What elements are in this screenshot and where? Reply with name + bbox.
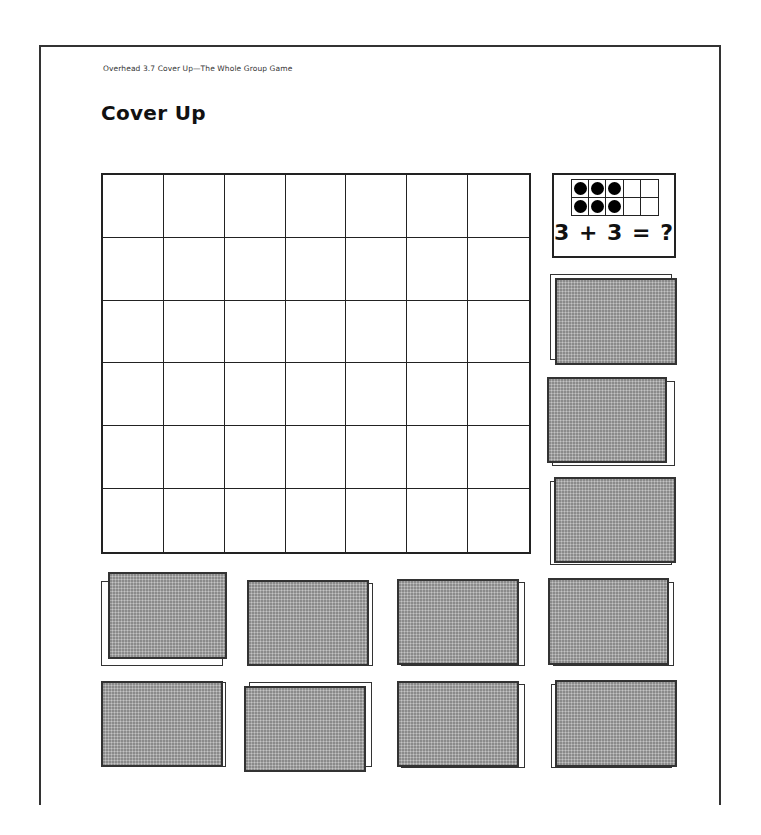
game-board-grid: [101, 173, 531, 554]
board-cell[interactable]: [468, 238, 529, 301]
board-cell[interactable]: [164, 301, 225, 364]
board-cell[interactable]: [103, 489, 164, 552]
board-cell[interactable]: [468, 363, 529, 426]
board-cell[interactable]: [103, 175, 164, 238]
page-title: Cover Up: [101, 101, 206, 125]
counter-dot-icon: [574, 182, 587, 195]
ten-frame-cell: [624, 198, 641, 216]
counter-dot-icon: [591, 200, 604, 213]
ten-frame-cell: [572, 180, 589, 198]
board-cell[interactable]: [103, 301, 164, 364]
board-cell[interactable]: [468, 426, 529, 489]
ten-frame-cell: [641, 198, 658, 216]
board-cell[interactable]: [346, 175, 407, 238]
counter-dot-icon: [574, 200, 587, 213]
board-cell[interactable]: [225, 489, 286, 552]
ten-frame: [571, 179, 659, 216]
board-cell[interactable]: [225, 175, 286, 238]
board-cell[interactable]: [164, 363, 225, 426]
board-cell[interactable]: [407, 489, 468, 552]
overhead-caption: Overhead 3.7 Cover Up—The Whole Group Ga…: [103, 64, 292, 73]
board-cell[interactable]: [103, 238, 164, 301]
ten-frame-cell: [589, 198, 606, 216]
board-cell[interactable]: [164, 426, 225, 489]
board-cell[interactable]: [164, 238, 225, 301]
board-cell[interactable]: [286, 489, 347, 552]
face-down-card[interactable]: [244, 686, 366, 772]
board-cell[interactable]: [225, 363, 286, 426]
board-cell[interactable]: [468, 301, 529, 364]
face-down-card[interactable]: [548, 578, 669, 665]
board-cell[interactable]: [346, 489, 407, 552]
face-down-card[interactable]: [397, 579, 519, 665]
board-cell[interactable]: [407, 363, 468, 426]
board-cell[interactable]: [286, 426, 347, 489]
face-down-card[interactable]: [108, 572, 227, 659]
board-cell[interactable]: [164, 175, 225, 238]
face-down-card[interactable]: [554, 477, 676, 563]
face-down-card[interactable]: [101, 681, 223, 767]
equation-text: 3 + 3 = ?: [554, 220, 674, 245]
board-cell[interactable]: [286, 301, 347, 364]
board-cell[interactable]: [407, 426, 468, 489]
face-down-card[interactable]: [555, 680, 677, 767]
board-cell[interactable]: [407, 238, 468, 301]
board-cell[interactable]: [468, 175, 529, 238]
counter-dot-icon: [608, 182, 621, 195]
board-cell[interactable]: [225, 238, 286, 301]
board-cell[interactable]: [346, 363, 407, 426]
board-cell[interactable]: [225, 301, 286, 364]
board-cell[interactable]: [407, 175, 468, 238]
board-cell[interactable]: [468, 489, 529, 552]
ten-frame-cell: [589, 180, 606, 198]
problem-card: 3 + 3 = ?: [552, 173, 676, 258]
board-cell[interactable]: [346, 301, 407, 364]
ten-frame-cell: [606, 198, 623, 216]
face-down-card[interactable]: [397, 681, 519, 767]
board-cell[interactable]: [286, 363, 347, 426]
board-cell[interactable]: [225, 426, 286, 489]
board-cell[interactable]: [103, 363, 164, 426]
board-cell[interactable]: [286, 175, 347, 238]
board-cell[interactable]: [346, 238, 407, 301]
counter-dot-icon: [608, 200, 621, 213]
ten-frame-cell: [606, 180, 623, 198]
board-cell[interactable]: [407, 301, 468, 364]
board-cell[interactable]: [286, 238, 347, 301]
face-down-card[interactable]: [247, 580, 369, 666]
board-cell[interactable]: [103, 426, 164, 489]
counter-dot-icon: [591, 182, 604, 195]
ten-frame-cell: [572, 198, 589, 216]
ten-frame-cell: [641, 180, 658, 198]
face-down-card[interactable]: [555, 278, 677, 365]
ten-frame-cell: [624, 180, 641, 198]
face-down-card[interactable]: [547, 377, 667, 463]
board-cell[interactable]: [164, 489, 225, 552]
board-cell[interactable]: [346, 426, 407, 489]
